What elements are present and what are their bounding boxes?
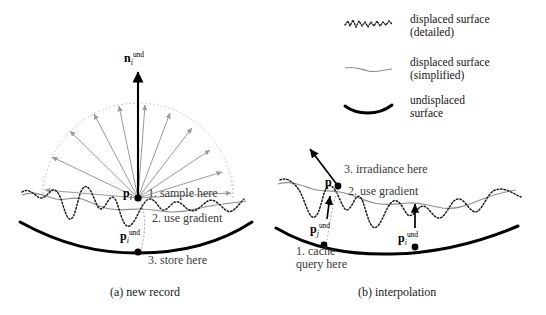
pi-und-subscript: i xyxy=(127,236,129,245)
pi-symbol: p xyxy=(123,186,130,200)
panel-a-pi-label: pi xyxy=(123,186,132,202)
pi-subscript: i xyxy=(130,193,132,202)
legend-swatch-simplified xyxy=(345,67,392,71)
panel-b-step-1b: query here xyxy=(296,258,347,271)
p-symbol: p xyxy=(325,175,332,189)
panel-b-p-label: p xyxy=(325,175,332,190)
legend-label-detailed-line2: (detailed) xyxy=(410,26,454,39)
legend-label-simplified-line2: (simplified) xyxy=(410,69,464,82)
panel-a-step-2: 2. use gradient xyxy=(152,212,222,225)
normal-subscript: i xyxy=(131,58,133,67)
normal-superscript: und xyxy=(133,50,144,59)
legend-swatch-detailed xyxy=(345,20,392,27)
pj-und-symbol: p xyxy=(310,222,317,236)
normal-symbol: n xyxy=(124,51,131,65)
pi-und-b-superscript: und xyxy=(407,230,418,239)
pi-und-b-subscript: i xyxy=(405,238,407,247)
legend-label-simplified-line1: displaced surface xyxy=(410,56,490,69)
pi-und-b-symbol: p xyxy=(398,231,405,245)
panel-a-pi-und-label: piund xyxy=(120,228,140,245)
figure-root: displaced surface (detailed) displaced s… xyxy=(0,0,546,315)
panel-a-point-pi xyxy=(134,194,141,201)
panel-b-point-p xyxy=(335,183,342,190)
panel-b-step-2: 2. use gradient xyxy=(348,185,418,198)
figure-canvas xyxy=(0,0,546,315)
panel-b-pi-und-label: piund xyxy=(398,230,418,247)
legend-label-undisplaced-line2: surface xyxy=(410,107,443,120)
panel-a-point-pi-und xyxy=(134,248,141,255)
legend-swatch-undisplaced xyxy=(345,105,392,113)
panel-a-caption: (a) new record xyxy=(110,285,180,300)
panel-b-caption: (b) interpolation xyxy=(358,285,436,300)
panel-b-pj-und-label: pjund xyxy=(310,221,330,238)
panel-b-irradiance-arrow xyxy=(310,149,338,186)
pj-und-superscript: und xyxy=(319,221,330,230)
pi-und-superscript: und xyxy=(129,228,140,237)
panel-b-query-arrow-left xyxy=(327,196,330,219)
panel-a-step-1: 1. sample here xyxy=(148,187,218,200)
panel-b-step-3: 3. irradiance here xyxy=(344,163,428,176)
panel-a-normal-label: niund xyxy=(124,50,144,67)
legend-label-detailed-line1: displaced surface xyxy=(410,13,490,26)
pj-und-subscript: j xyxy=(317,229,319,238)
pi-und-symbol: p xyxy=(120,229,127,243)
panel-a-step-3: 3. store here xyxy=(148,254,207,267)
legend-label-undisplaced-line1: undisplaced xyxy=(410,94,465,107)
